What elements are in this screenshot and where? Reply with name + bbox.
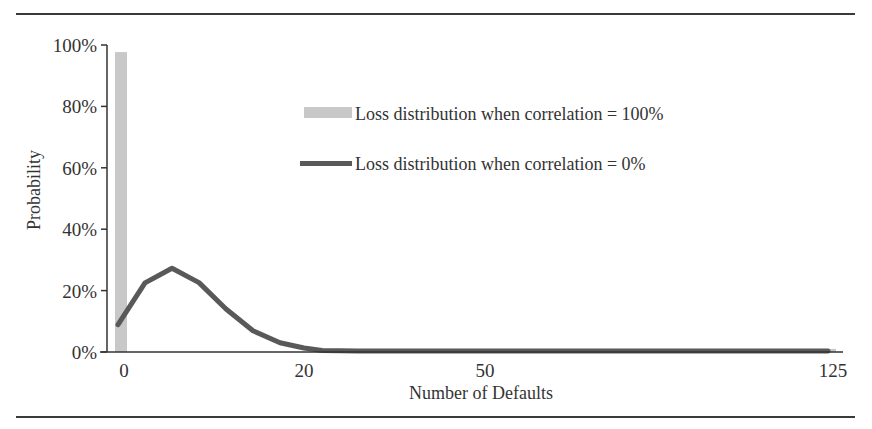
line-series-correlation-0 (118, 268, 828, 351)
legend-swatch-correlation-100 (304, 107, 352, 118)
y-tick-label: 100% (53, 35, 98, 56)
y-tick-label: 0% (72, 342, 98, 363)
y-tick-label: 20% (62, 281, 97, 302)
x-tick-label: 20 (295, 360, 314, 381)
x-axis-title: Number of Defaults (409, 383, 553, 403)
y-tick-label: 40% (62, 219, 97, 240)
y-axis-title: Probability (24, 150, 44, 230)
y-tick-label: 60% (62, 158, 97, 179)
bar (115, 52, 127, 352)
x-axis-ticks: 02050125 (119, 360, 847, 381)
x-tick-label: 50 (476, 360, 495, 381)
legend: Loss distribution when correlation = 100… (300, 104, 664, 174)
x-tick-label: 125 (819, 360, 848, 381)
legend-label-correlation-100: Loss distribution when correlation = 100… (355, 104, 664, 124)
legend-label-correlation-0: Loss distribution when correlation = 0% (355, 154, 646, 174)
chart: 0%20%40%60%80%100% 02050125 Probability … (0, 0, 872, 429)
y-axis-ticks: 0%20%40%60%80%100% (53, 35, 107, 363)
y-tick-label: 80% (62, 96, 97, 117)
legend-swatch-correlation-0 (300, 161, 352, 166)
x-tick-label: 0 (119, 360, 129, 381)
